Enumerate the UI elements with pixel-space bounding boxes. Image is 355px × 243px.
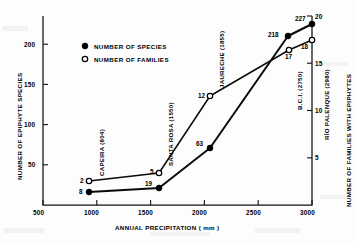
point-label-families: 2 <box>80 177 84 184</box>
point-label-families: 18 <box>301 43 308 50</box>
x-axis-title: ANNUAL PRECIPITATION ( mm ) <box>115 224 219 231</box>
x-tick-label: 1000 <box>84 209 99 216</box>
plot-canvas <box>0 0 355 243</box>
y-tick-label-right: 20 <box>315 13 323 20</box>
data-point-species <box>156 185 162 191</box>
x-tick-label: 3000 <box>300 209 315 216</box>
y-tick-label-right: 15 <box>315 60 323 67</box>
point-label-species: 218 <box>268 31 279 38</box>
legend-label-species: NUMBER OF SPECIES <box>94 43 167 50</box>
y-tick-label-right: 10 <box>315 107 323 114</box>
y-axis-title-right: NUMBER OF FAMILIES WITH EPIPHYTES <box>345 74 352 207</box>
x-tick-label: 2500 <box>246 209 261 216</box>
data-point-species <box>285 33 291 39</box>
point-label-species: 8 <box>79 188 83 195</box>
point-label-families: 12 <box>198 92 205 99</box>
site-annotation-rio-palenque: RÍO PALENQUE (2980) <box>323 69 330 140</box>
x-tick-label: 2000 <box>192 209 207 216</box>
site-annotation-santa-rosa: SANTA ROSA (1550) <box>167 102 174 166</box>
legend-marker-families <box>82 56 87 61</box>
y-tick-label-left: 50 <box>28 161 36 168</box>
point-label-families: 5 <box>150 168 154 175</box>
site-annotation-jaureche: JAURECHE (1855) <box>218 31 225 88</box>
y-axis-left-ticks <box>43 44 48 165</box>
chart-figure: NUMBER OF SPECIES NUMBER OF FAMILIES 500… <box>0 0 355 243</box>
data-point-species <box>309 21 315 27</box>
x-tick-label: 500 <box>33 209 44 216</box>
data-point-families <box>156 170 161 175</box>
y-axis-title-left: NUMBER OF EPIPHYTE SPECIES <box>16 73 23 180</box>
legend-label-families: NUMBER OF FAMILIES <box>94 56 169 63</box>
point-label-species: 227 <box>295 15 306 22</box>
y-tick-label-left: 200 <box>24 41 35 48</box>
site-annotation-capeira: CAPEIRA (804) <box>98 129 105 176</box>
point-label-species: 19 <box>145 180 152 187</box>
x-axis-ticks <box>43 200 312 205</box>
data-point-species <box>207 145 213 151</box>
site-annotation-bci: B.C.I. (2750) <box>296 71 303 110</box>
data-point-families <box>207 93 212 98</box>
data-point-families <box>286 47 291 52</box>
data-point-families <box>86 178 91 183</box>
y-tick-label-right: 5 <box>315 154 319 161</box>
point-label-families: 17 <box>285 53 292 60</box>
data-point-families <box>309 37 314 42</box>
legend-marker-species <box>82 43 88 49</box>
y-tick-label-left: 150 <box>24 81 35 88</box>
y-tick-label-left: 100 <box>24 121 35 128</box>
x-tick-label: 1500 <box>138 209 153 216</box>
data-point-species <box>86 189 92 195</box>
point-label-species: 63 <box>196 140 203 147</box>
legend-markers <box>82 43 88 62</box>
